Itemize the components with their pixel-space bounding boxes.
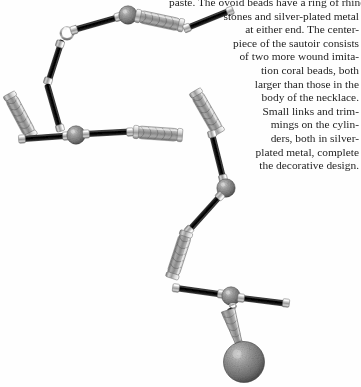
body-line: stones and silver-plated metal: [139, 10, 359, 24]
silver-cap: [282, 299, 290, 308]
silver-cap: [237, 294, 245, 303]
body-line: paste. The ovoid beads have a ring of rh…: [139, 0, 359, 10]
body-line: ders, both in silver-: [139, 132, 359, 146]
body-line: at either end. The center-: [139, 23, 359, 37]
silver-cap: [82, 130, 89, 139]
body-line: the decorative design.: [139, 159, 359, 173]
body-line: mings on the cylin-: [139, 118, 359, 132]
body-text-column: paste. The ovoid beads have a ring of rh…: [139, 0, 359, 173]
large-wound-coral-pendant-bead: [224, 342, 265, 383]
wound-imitation-coral-round-bead: [222, 287, 240, 305]
body-line: larger than those in the: [139, 78, 359, 92]
silver-cap: [172, 283, 180, 292]
body-line: piece of the sautoir consists: [139, 37, 359, 51]
body-line: tion coral beads, both: [139, 64, 359, 78]
body-line: plated metal, complete: [139, 146, 359, 160]
body-line: Small links and trim-: [139, 105, 359, 119]
silver-cap: [18, 135, 25, 144]
silver-cap: [126, 128, 133, 137]
body-line: body of the necklace.: [139, 91, 359, 105]
body-line: of two more wound imita-: [139, 50, 359, 64]
scanned-book-page: New York: [0, 0, 361, 387]
